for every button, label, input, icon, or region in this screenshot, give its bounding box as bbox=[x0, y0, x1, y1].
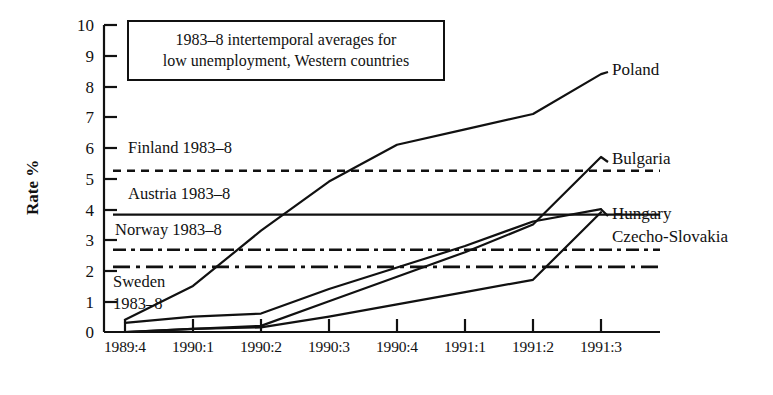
y-tick-label-3: 3 bbox=[68, 232, 94, 249]
y-tick-label-6: 6 bbox=[68, 140, 94, 157]
reference-label-sweden-line1: Sweden bbox=[113, 274, 165, 291]
x-tick-label-1990-1: 1990:1 bbox=[159, 339, 227, 355]
y-tick-label-10: 10 bbox=[68, 17, 94, 34]
y-tick-label-8: 8 bbox=[68, 79, 94, 96]
reference-label-finland: Finland 1983–8 bbox=[128, 140, 232, 157]
series-label-hungary: Hungary bbox=[612, 205, 671, 222]
callout-line-1: 1983–8 intertemporal averages for bbox=[129, 29, 443, 50]
series-label-poland: Poland bbox=[612, 61, 659, 78]
series-label-bulgaria: Bulgaria bbox=[612, 150, 671, 167]
y-tick-label-2: 2 bbox=[68, 263, 94, 280]
reference-label-sweden-line2: 1983–8 bbox=[113, 296, 163, 313]
y-tick-label-5: 5 bbox=[68, 171, 94, 188]
unemployment-rate-line-chart: 10 9 8 7 6 5 4 3 2 1 0 1989:4 1990:1 199… bbox=[0, 0, 773, 395]
y-axis-title: Rate % bbox=[24, 160, 41, 215]
y-tick-marks bbox=[104, 25, 117, 302]
x-tick-label-1990-4: 1990:4 bbox=[363, 339, 431, 355]
y-tick-label-4: 4 bbox=[68, 202, 94, 219]
x-tick-label-1991-1: 1991:1 bbox=[431, 339, 499, 355]
y-tick-label-1: 1 bbox=[68, 294, 94, 311]
y-tick-label-9: 9 bbox=[68, 48, 94, 65]
series-leader-bulgaria bbox=[601, 157, 608, 162]
x-tick-label-1990-3: 1990:3 bbox=[295, 339, 363, 355]
series-leader-poland bbox=[601, 72, 608, 74]
x-tick-label-1991-2: 1991:2 bbox=[499, 339, 567, 355]
callout-box: 1983–8 intertemporal averages for low un… bbox=[127, 20, 445, 81]
x-tick-label-1989-4: 1989:4 bbox=[91, 339, 159, 355]
series-label-czecho-slovakia: Czecho-Slovakia bbox=[612, 228, 728, 245]
y-tick-label-7: 7 bbox=[68, 109, 94, 126]
callout-line-2: low unemployment, Western countries bbox=[129, 50, 443, 71]
reference-label-austria: Austria 1983–8 bbox=[128, 186, 230, 203]
x-tick-marks bbox=[125, 319, 601, 332]
reference-label-norway: Norway 1983–8 bbox=[115, 222, 222, 239]
x-tick-label-1990-2: 1990:2 bbox=[227, 339, 295, 355]
x-tick-label-1991-3: 1991:3 bbox=[567, 339, 635, 355]
